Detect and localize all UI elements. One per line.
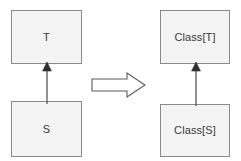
uml-class-box-class-s-label: Class[S] (174, 125, 216, 136)
generalization-edge-class-s-to-class-t (187, 62, 205, 106)
generalization-edge-s-to-t (38, 62, 56, 104)
uml-class-box-t[interactable]: T (11, 10, 82, 64)
uml-class-box-class-s[interactable]: Class[S] (160, 104, 230, 157)
uml-class-box-t-label: T (43, 32, 50, 43)
block-arrow-right-icon: implies (91, 72, 146, 98)
uml-class-box-class-t[interactable]: Class[T] (160, 10, 230, 64)
block-arrow-shape (92, 73, 145, 97)
solid-triangle-arrowhead-icon (192, 62, 201, 71)
solid-triangle-arrowhead-icon (43, 62, 52, 71)
diagram-canvas: T S implies Class[T] Class[S] (0, 0, 241, 161)
uml-class-box-class-t-label: Class[T] (174, 32, 215, 43)
uml-class-box-s-label: S (43, 124, 50, 135)
uml-class-box-s[interactable]: S (11, 101, 82, 157)
